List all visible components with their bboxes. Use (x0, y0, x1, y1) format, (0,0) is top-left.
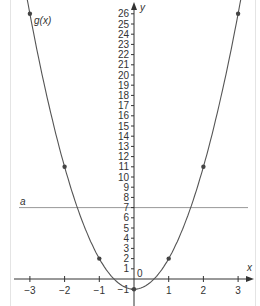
y-tick-label: 4 (123, 233, 129, 244)
y-tick-label: 14 (118, 131, 130, 142)
data-point (62, 165, 66, 169)
x-tick-label: 3 (235, 285, 241, 296)
data-point (132, 287, 136, 291)
y-tick-label: 13 (118, 141, 130, 152)
y-tick-label: 22 (118, 49, 130, 60)
y-tick-label: 25 (118, 19, 130, 30)
data-point (201, 165, 205, 169)
data-point (97, 256, 101, 260)
y-tick-label: 16 (118, 110, 130, 121)
y-tick-label: 7 (123, 202, 129, 213)
y-axis-label: y (139, 2, 146, 13)
x-tick-label: −3 (24, 285, 36, 296)
y-tick-label: 2 (123, 253, 129, 264)
y-tick-label: 20 (118, 70, 130, 81)
y-tick-label: 26 (118, 8, 130, 19)
y-tick-label: 17 (118, 100, 130, 111)
y-tick-label: 24 (118, 29, 130, 40)
y-tick-label: 19 (118, 80, 130, 91)
x-tick-label: −2 (59, 285, 71, 296)
y-tick-label: 8 (123, 192, 129, 203)
y-axis-arrow-icon (131, 2, 137, 10)
function-label: g(x) (34, 15, 51, 26)
origin-label: 0 (137, 268, 143, 279)
x-tick-label: 2 (201, 285, 207, 296)
y-tick-label: −1 (118, 284, 130, 295)
y-tick-label: 3 (123, 243, 129, 254)
y-tick-label: 11 (119, 161, 130, 172)
x-axis-arrow-icon (246, 276, 254, 282)
y-tick-label: 9 (123, 182, 129, 193)
y-tick-label: 5 (123, 223, 129, 234)
data-point (167, 256, 171, 260)
y-tick-label: 15 (118, 121, 130, 132)
y-tick-label: 6 (123, 212, 129, 223)
data-point (236, 12, 240, 16)
parabola-chart: axy−3−2−1123−112345678910111213141516171… (0, 0, 260, 306)
y-tick-label: 1 (123, 263, 129, 274)
y-tick-label: 12 (118, 151, 130, 162)
x-tick-label: 1 (166, 285, 172, 296)
x-axis-label: x (246, 262, 253, 273)
y-tick-label: 10 (118, 172, 130, 183)
line-a-label: a (20, 196, 26, 207)
y-tick-label: 23 (118, 39, 130, 50)
x-tick-label: −1 (94, 285, 106, 296)
y-tick-label: 18 (118, 90, 130, 101)
y-tick-label: 21 (118, 59, 130, 70)
data-point (28, 12, 32, 16)
